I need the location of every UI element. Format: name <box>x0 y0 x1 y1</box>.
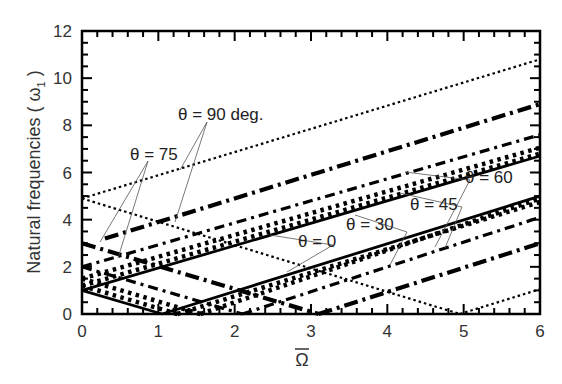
label-theta-30: θ = 30 <box>346 215 394 234</box>
label-theta-75: θ = 75 <box>130 145 178 164</box>
label-theta-45: θ = 45 <box>410 195 458 214</box>
x-tick-label: 4 <box>383 322 392 341</box>
y-tick-label: 4 <box>63 211 72 230</box>
y-tick-label: 12 <box>53 22 72 41</box>
y-tick-labels: 024681012 <box>53 22 72 324</box>
y-tick-label: 10 <box>53 69 72 88</box>
x-tick-label: 1 <box>154 322 163 341</box>
x-tick-label: 3 <box>306 322 315 341</box>
label-theta-0: θ = 0 <box>298 232 336 251</box>
x-axis-title: Ω <box>295 349 309 370</box>
label-theta-90: θ = 90 deg. <box>178 105 264 124</box>
x-tick-labels: 0123456 <box>77 322 544 341</box>
x-tick-label: 0 <box>77 322 86 341</box>
x-tick-label: 2 <box>230 322 239 341</box>
y-axis-title: Natural frequencies ( ω1 ) <box>24 70 47 273</box>
y-tick-label: 2 <box>63 258 72 277</box>
label-theta-60: θ = 60 <box>465 168 513 187</box>
x-tick-label: 5 <box>459 322 468 341</box>
series-line-5 <box>82 290 162 314</box>
x-axis-title-text: Ω <box>295 350 308 370</box>
y-tick-label: 6 <box>63 164 72 183</box>
series-line-0 <box>460 289 540 314</box>
series-line-5 <box>162 196 540 314</box>
y-tick-label: 8 <box>63 116 72 135</box>
y-axis-title-text: Natural frequencies ( ω1 ) <box>24 70 47 273</box>
y-tick-label: 0 <box>63 305 72 324</box>
x-tick-label: 6 <box>535 322 544 341</box>
frequency-chart: 0123456 024681012 θ = 90 deg. θ = 75 θ =… <box>0 0 562 384</box>
